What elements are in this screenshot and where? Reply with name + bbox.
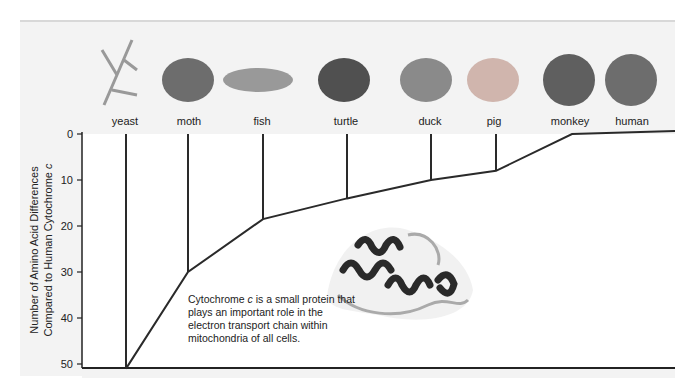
human-icon <box>605 54 657 106</box>
moth-icon <box>162 58 214 102</box>
axis-title-line2: Compared to Human Cytochrome c <box>42 163 54 337</box>
organism-label-fish: fish <box>253 115 270 127</box>
organism-label-yeast: yeast <box>112 115 138 127</box>
organism-label-human: human <box>615 115 649 127</box>
yeast-icon <box>102 40 137 105</box>
tick-label: 40 <box>61 312 73 324</box>
fish-icon <box>223 68 293 92</box>
organism-label-duck: duck <box>418 115 442 127</box>
pig-icon <box>467 58 519 102</box>
caption-part1: Cytochrome <box>188 293 248 305</box>
tick-label: 0 <box>67 128 73 140</box>
organism-label-monkey: monkey <box>551 115 590 127</box>
duck-icon <box>400 58 452 102</box>
axis-title-line2-text: Compared to Human Cytochrome <box>42 169 54 337</box>
tick-label: 20 <box>61 220 73 232</box>
axis-title-italic-c: c <box>42 163 54 169</box>
organism-label-pig: pig <box>487 115 502 127</box>
tick-label: 50 <box>61 358 73 370</box>
organism-label-moth: moth <box>177 115 201 127</box>
axis-title-line1: Number of Amino Acid Differences <box>28 166 40 334</box>
organism-label-turtle: turtle <box>334 115 358 127</box>
caption: Cytochrome c is a small protein that pla… <box>188 293 358 345</box>
tick-label: 10 <box>61 174 73 186</box>
monkey-icon <box>543 54 595 106</box>
tick-label: 30 <box>61 266 73 278</box>
turtle-icon <box>318 58 370 102</box>
